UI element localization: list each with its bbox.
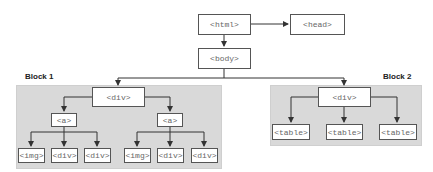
node-block2-table3: <table> <box>379 124 417 140</box>
node-body: <body> <box>198 48 251 69</box>
node-block1-right-div2: <div> <box>191 148 218 163</box>
node-html: <html> <box>198 14 251 35</box>
node-block2-table2: <table> <box>326 124 363 140</box>
node-block1-right-img: <img> <box>124 148 151 163</box>
node-block1-right-div1: <div> <box>157 148 184 163</box>
node-block1-left-div2: <div> <box>84 148 111 163</box>
node-head: <head> <box>290 14 345 35</box>
block-1-label: Block 1 <box>25 72 53 81</box>
node-block1-a-right: <a> <box>157 113 183 127</box>
node-block1-div: <div> <box>92 87 145 107</box>
node-block1-a-left: <a> <box>51 113 77 127</box>
node-block1-left-div1: <div> <box>51 148 78 163</box>
node-block2-table1: <table> <box>272 124 310 140</box>
block-2-label: Block 2 <box>383 72 411 81</box>
node-block2-div: <div> <box>318 87 371 107</box>
node-block1-left-img: <img> <box>18 148 45 163</box>
